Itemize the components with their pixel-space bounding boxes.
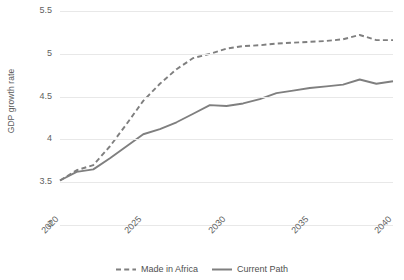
gridline [60,11,393,12]
legend-item[interactable]: Made in Africa [116,265,198,274]
legend-label: Current Path [237,265,288,274]
y-axis-tick-label: 4.5 [22,92,52,101]
y-axis-tick-label: 3.5 [22,177,52,186]
y-axis-title: GDP growth rate [6,46,16,156]
solid-line-icon [212,265,232,274]
gridline [60,97,393,98]
chart-legend: Made in AfricaCurrent Path [0,265,404,274]
series-lines [60,11,393,225]
dashed-line-icon [116,265,136,274]
series-line [60,79,393,180]
y-axis-tick-labels: 33.544.555.5 [22,0,52,280]
legend-item[interactable]: Current Path [212,265,288,274]
legend-label: Made in Africa [141,265,198,274]
gridline [60,182,393,183]
gridline [60,139,393,140]
y-axis-tick-label: 5 [22,49,52,58]
gdp-growth-rate-chart: GDP growth rate 33.544.555.5 20202025203… [0,0,404,280]
y-axis-tick-label: 4 [22,134,52,143]
y-axis-tick-label: 5.5 [22,6,52,15]
gridline [60,225,393,226]
plot-area [60,11,393,225]
gridline [60,54,393,55]
